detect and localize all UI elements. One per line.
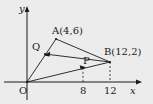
point-dot-a (55, 38, 57, 40)
geometry-figure: A(4,6) Q B(12,2) P O 8 12 x y (0, 0, 153, 104)
origin-label: O (19, 86, 27, 96)
point-dot-q (44, 53, 46, 55)
y-axis-label: y (19, 4, 25, 14)
x-axis-label: x (130, 86, 136, 96)
y-axis-arrowhead (25, 6, 30, 12)
point-label-b: B(12,2) (104, 47, 141, 57)
x-tick-label-12: 12 (104, 86, 117, 96)
point-label-p: P (83, 56, 90, 66)
point-label-q: Q (32, 42, 40, 52)
x-axis-arrowhead (136, 80, 142, 85)
x-tick-label-8: 8 (80, 86, 86, 96)
point-label-a: A(4,6) (52, 26, 83, 36)
point-dot-b (109, 61, 111, 63)
point-dot-o (26, 81, 28, 83)
segment-ob (27, 62, 110, 82)
